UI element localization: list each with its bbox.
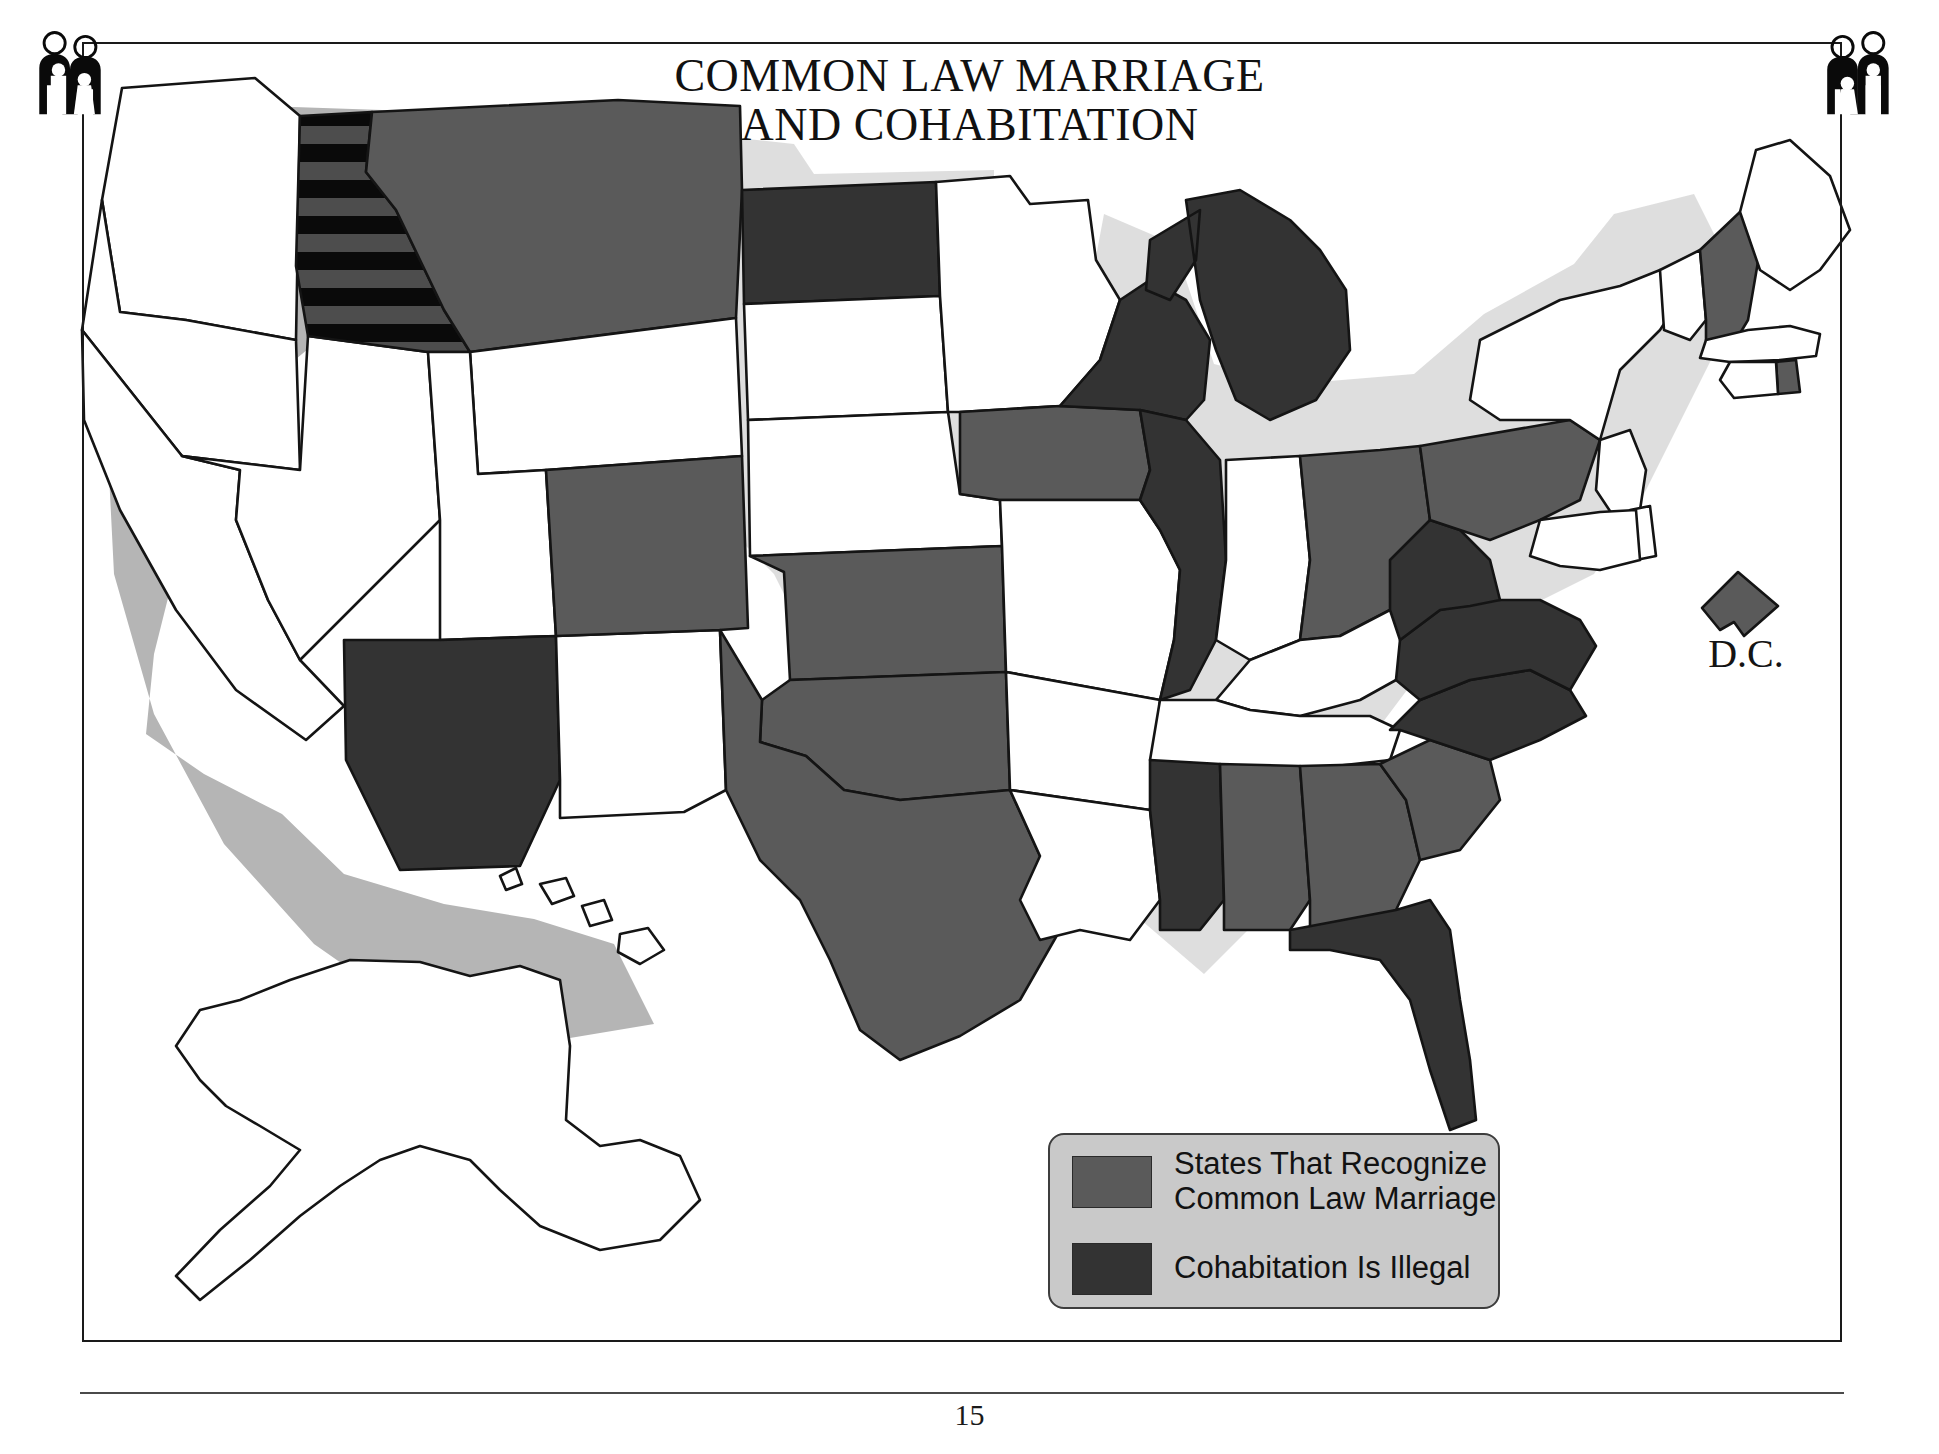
page-title-line2: AND COHABITATION [0, 101, 1939, 150]
state-NM[interactable] [556, 630, 726, 818]
state-MS[interactable] [1150, 760, 1224, 930]
page-number: 15 [0, 1398, 1939, 1432]
state-MD[interactable] [1530, 510, 1640, 570]
legend-label-recognize: States That Recognize Common Law Marriag… [1174, 1147, 1496, 1216]
state-RI[interactable] [1776, 360, 1800, 394]
state-SD[interactable] [744, 296, 948, 420]
family-silhouette-icon [1808, 22, 1904, 118]
legend-label-recognize-line1: States That Recognize [1174, 1147, 1496, 1182]
map-page: COMMON LAW MARRIAGE AND COHABITATION D.C… [0, 0, 1939, 1454]
legend-label-illegal-line1: Cohabitation Is Illegal [1174, 1251, 1470, 1286]
legend-swatch-recognize [1072, 1156, 1152, 1208]
us-map [0, 0, 1939, 1454]
state-IA[interactable] [960, 406, 1150, 500]
state-MO[interactable] [1000, 500, 1180, 700]
family-silhouette-icon [22, 22, 118, 118]
page-title-line1: COMMON LAW MARRIAGE [674, 50, 1264, 101]
state-FL[interactable] [1290, 900, 1476, 1130]
state-CT[interactable] [1720, 362, 1778, 398]
dc-label: D.C. [1676, 630, 1816, 677]
state-IN[interactable] [1216, 456, 1310, 660]
legend-label-illegal: Cohabitation Is Illegal [1174, 1251, 1470, 1286]
legend-item-illegal[interactable]: Cohabitation Is Illegal [1072, 1243, 1498, 1295]
legend-swatch-illegal [1072, 1243, 1152, 1295]
state-KS[interactable] [750, 546, 1006, 680]
footer-rule [80, 1392, 1844, 1394]
state-AL[interactable] [1220, 764, 1310, 930]
state-AZ[interactable] [344, 636, 560, 870]
state-CO[interactable] [546, 456, 748, 636]
legend-label-recognize-line2: Common Law Marriage [1174, 1182, 1496, 1217]
map-legend: States That Recognize Common Law Marriag… [1048, 1133, 1500, 1309]
legend-item-recognize[interactable]: States That Recognize Common Law Marriag… [1072, 1147, 1498, 1216]
page-title: COMMON LAW MARRIAGE AND COHABITATION [0, 52, 1939, 150]
state-ND[interactable] [742, 182, 940, 304]
dc-marker[interactable] [1702, 572, 1778, 636]
